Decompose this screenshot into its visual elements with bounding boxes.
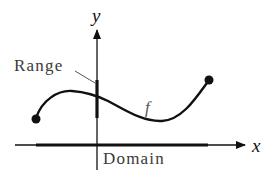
function-label: f	[145, 98, 152, 117]
right-endpoint-dot	[205, 76, 214, 85]
domain-range-diagram: y x Range Domain f	[0, 0, 272, 176]
range-pointer-line	[75, 71, 95, 83]
x-axis-label: x	[251, 135, 261, 156]
y-axis-label: y	[90, 5, 101, 26]
domain-label: Domain	[103, 149, 165, 168]
range-label: Range	[14, 56, 63, 75]
function-f-curve	[36, 80, 209, 121]
left-endpoint-dot	[32, 115, 41, 124]
